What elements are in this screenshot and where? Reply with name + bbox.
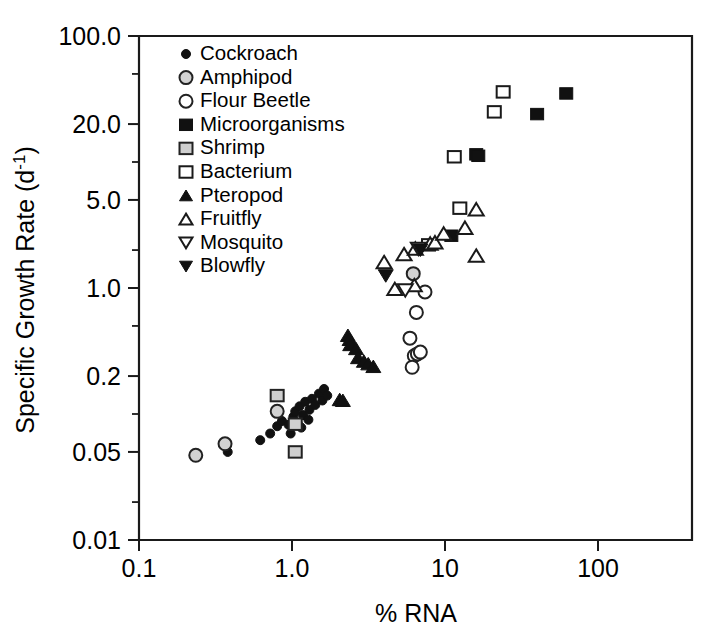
legend-label-microorganisms: Microorganisms: [200, 112, 345, 135]
data-point: [488, 106, 501, 117]
data-point: [289, 418, 302, 429]
legend-marker-amphipod: [180, 71, 193, 84]
data-point: [497, 86, 510, 97]
open-square-marker: [180, 166, 193, 177]
gray-circle-marker: [407, 267, 420, 280]
data-point: [414, 346, 427, 359]
filled-circle-marker: [266, 429, 275, 438]
data-point: [189, 449, 202, 462]
legend-label-pteropod: Pteropod: [200, 183, 283, 206]
data-point: [304, 415, 313, 424]
y-tick-label: 5.0: [86, 186, 121, 214]
data-point: [448, 151, 461, 162]
filled-square-marker: [472, 150, 485, 161]
open-circle-marker: [403, 332, 416, 345]
x-tick-label: 10: [431, 554, 459, 582]
data-point: [271, 405, 284, 418]
gray-square-marker: [271, 390, 284, 401]
data-point: [266, 429, 275, 438]
filled-circle-marker: [182, 50, 191, 59]
data-point: [531, 108, 544, 119]
y-tick-label: 1.0: [86, 274, 121, 302]
y-tick-label: 20.0: [72, 110, 121, 138]
svg-text:Specific Growth Rate (d-1): Specific Growth Rate (d-1): [10, 146, 39, 433]
data-point: [289, 446, 302, 457]
open-circle-marker: [410, 306, 423, 319]
open-square-marker: [453, 202, 466, 213]
filled-square-marker: [560, 88, 573, 99]
legend-label-fruitfly: Fruitfly: [200, 206, 262, 229]
y-axis-title-superscript: -1: [10, 155, 29, 170]
data-point: [406, 361, 419, 374]
x-axis-title: % RNA: [375, 599, 457, 627]
data-point: [219, 437, 232, 450]
data-point: [403, 332, 416, 345]
legend-marker-shrimp: [180, 143, 193, 154]
open-square-marker: [497, 86, 510, 97]
gray-circle-marker: [180, 71, 193, 84]
legend-marker-bacterium: [180, 166, 193, 177]
x-tick-label: 1.0: [275, 554, 310, 582]
gray-circle-marker: [219, 437, 232, 450]
data-point: [256, 436, 265, 445]
open-circle-marker: [406, 361, 419, 374]
plot-canvas: 0.11.010100 100.020.05.01.00.20.050.01 %…: [0, 0, 715, 635]
gray-square-marker: [289, 446, 302, 457]
data-point: [271, 390, 284, 401]
legend-marker-flour-beetle: [180, 95, 193, 108]
gray-square-marker: [289, 418, 302, 429]
filled-square-marker: [180, 119, 193, 130]
legend-label-blowfly: Blowfly: [200, 253, 266, 276]
y-tick-label: 100.0: [58, 22, 121, 50]
gray-square-marker: [180, 143, 193, 154]
y-tick-label: 0.2: [86, 362, 121, 390]
filled-circle-marker: [323, 391, 332, 400]
legend-label-cockroach: Cockroach: [200, 41, 298, 64]
gray-circle-marker: [189, 449, 202, 462]
legend-marker-cockroach: [182, 50, 191, 59]
filled-circle-marker: [256, 436, 265, 445]
gray-circle-marker: [271, 405, 284, 418]
legend-label-amphipod: Amphipod: [200, 65, 292, 88]
x-tick-label: 100: [577, 554, 619, 582]
y-tick-label: 0.01: [72, 526, 121, 554]
open-square-marker: [448, 151, 461, 162]
open-circle-marker: [414, 346, 427, 359]
scatter-plot-figure: 0.11.010100 100.020.05.01.00.20.050.01 %…: [0, 0, 715, 635]
legend-marker-microorganisms: [180, 119, 193, 130]
data-point: [453, 202, 466, 213]
legend-label-flour-beetle: Flour Beetle: [200, 88, 311, 111]
y-tick-label: 0.05: [72, 438, 121, 466]
data-point: [560, 88, 573, 99]
data-point: [407, 267, 420, 280]
data-point: [472, 150, 485, 161]
legend-label-mosquito: Mosquito: [200, 230, 283, 253]
open-square-marker: [488, 106, 501, 117]
legend-label-shrimp: Shrimp: [200, 135, 265, 158]
y-axis-title-close: ): [11, 146, 39, 154]
filled-circle-marker: [304, 415, 313, 424]
y-axis-title-main: Specific Growth Rate (d: [11, 170, 39, 434]
data-point: [410, 306, 423, 319]
x-tick-label: 0.1: [122, 554, 157, 582]
legend-label-bacterium: Bacterium: [200, 159, 292, 182]
open-circle-marker: [180, 95, 193, 108]
y-axis-title: Specific Growth Rate (d-1): [10, 146, 39, 433]
filled-square-marker: [531, 108, 544, 119]
data-point: [323, 391, 332, 400]
